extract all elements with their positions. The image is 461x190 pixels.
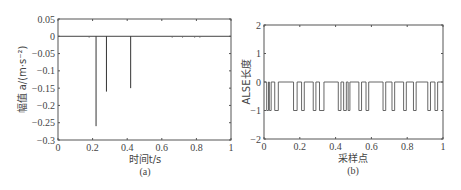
x-axis-label: 时间t/s	[129, 153, 162, 165]
x-tick-label: 0.8	[190, 142, 203, 153]
pulse-train	[264, 82, 443, 111]
x-tick-label: 0.2	[294, 141, 307, 152]
y-axis-label: ALSE长度	[240, 59, 252, 104]
y-tick-label: −0.25	[32, 117, 55, 128]
x-tick-label: 0.6	[156, 142, 169, 153]
y-tick-label: 0.05	[38, 14, 56, 25]
x-tick-label: 0.6	[365, 141, 378, 152]
x-tick-label: 1	[229, 142, 234, 153]
plot-b: 00.20.40.60.81210−1−2采样点ALSE长度(b)	[240, 20, 446, 178]
y-tick-label: −0.15	[32, 83, 55, 94]
y-tick-label: 1	[256, 48, 261, 59]
y-tick-label: −1	[250, 105, 261, 116]
x-tick-label: 0.4	[329, 141, 342, 152]
x-tick-label: 0.4	[121, 142, 134, 153]
subfigure-caption: (b)	[347, 165, 359, 177]
subfigure-caption: (a)	[139, 166, 150, 178]
y-tick-label: −0.05	[32, 48, 55, 59]
y-tick-label: −0.2	[37, 100, 55, 111]
figure: 00.20.40.60.810.050−0.05−0.1−0.15−0.2−0.…	[0, 0, 461, 190]
y-tick-label: 0	[50, 31, 55, 42]
y-tick-label: −2	[250, 134, 261, 145]
y-tick-label: 2	[256, 20, 261, 31]
y-tick-label: 0	[256, 77, 261, 88]
x-tick-label: 0.2	[86, 142, 99, 153]
x-axis-label: 采样点	[338, 152, 368, 164]
plot-a: 00.20.40.60.810.050−0.05−0.1−0.15−0.2−0.…	[16, 14, 234, 179]
plot-frame	[58, 19, 231, 140]
y-axis-label: 幅值 a/(m·s⁻²)	[16, 45, 28, 113]
y-tick-label: −0.3	[37, 135, 55, 146]
x-tick-label: 0	[262, 141, 267, 152]
x-tick-label: 0	[56, 142, 61, 153]
x-tick-label: 0.8	[401, 141, 414, 152]
y-tick-label: −0.1	[37, 65, 55, 76]
x-tick-label: 1	[441, 141, 446, 152]
